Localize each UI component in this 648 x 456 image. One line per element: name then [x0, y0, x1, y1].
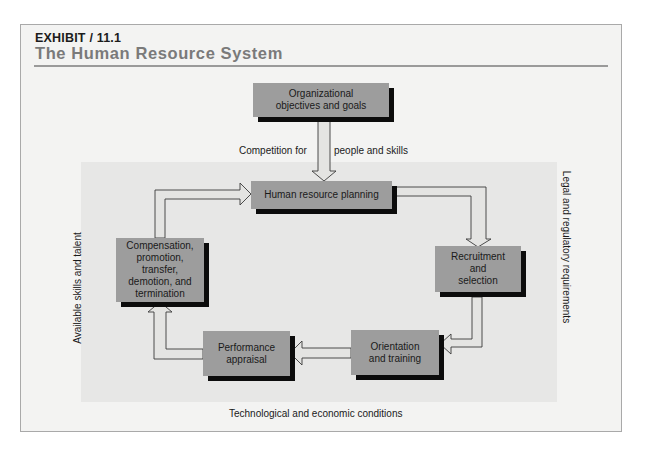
flow-arrows: [0, 0, 648, 456]
box-label: Compensation, promotion, transfer, demot…: [120, 240, 200, 300]
arrow-performance-to-compensation: [148, 302, 203, 359]
label-legal-requirements: Legal and regulatory requirements: [561, 171, 572, 323]
box-orientation-training: Orientation and training: [351, 330, 439, 375]
box-label: Human resource planning: [264, 189, 379, 201]
arrow-recruitment-to-orientation: [440, 297, 482, 354]
arrow-compensation-to-planning: [155, 183, 251, 238]
box-compensation: Compensation, promotion, transfer, demot…: [116, 238, 204, 302]
arrow-planning-to-recruitment: [393, 187, 491, 247]
box-label: Recruitment and selection: [450, 251, 506, 287]
box-hr-planning: Human resource planning: [251, 181, 392, 209]
label-available-skills: Available skills and talent: [72, 232, 83, 344]
label-competition-left: Competition for: [239, 145, 307, 156]
label-technological-conditions: Technological and economic conditions: [229, 408, 402, 419]
box-recruitment-selection: Recruitment and selection: [435, 246, 521, 292]
box-performance-appraisal: Performance appraisal: [203, 331, 290, 376]
box-organizational-objectives: Organizational objectives and goals: [253, 83, 389, 117]
box-label: Performance appraisal: [212, 342, 282, 366]
arrow-objectives-to-planning: [312, 121, 336, 181]
box-label: Orientation and training: [367, 341, 423, 365]
box-label: Organizational objectives and goals: [266, 88, 376, 112]
label-competition-right: people and skills: [334, 145, 408, 156]
arrow-orientation-to-performance: [290, 341, 351, 365]
